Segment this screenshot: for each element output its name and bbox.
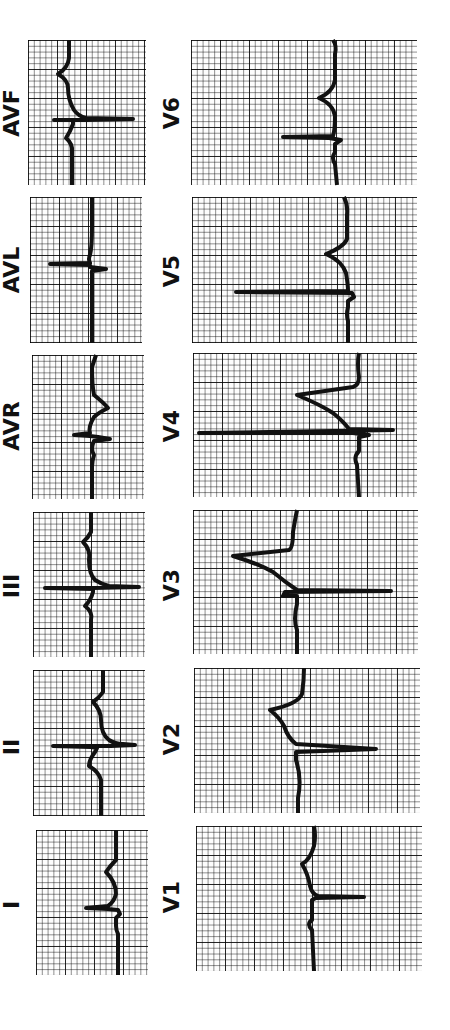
lead-label-v1: V1 [159, 867, 185, 927]
ecg-strip-v1 [196, 826, 422, 971]
ecg-trace-v3 [193, 510, 418, 654]
lead-label-avl: AVL [0, 240, 25, 300]
ecg-strip-v6 [191, 40, 417, 185]
ecg-trace-avl [30, 197, 142, 343]
ecg-trace-ii [33, 670, 145, 816]
ecg-trace-v1 [196, 826, 422, 971]
ecg-strip-v4 [193, 353, 417, 497]
ecg-strip-avf [28, 40, 146, 185]
ecg-trace-v5 [192, 197, 417, 343]
ecg-strip-ii [33, 670, 145, 816]
lead-label-i: I [0, 875, 25, 935]
lead-label-avr: AVR [0, 396, 25, 456]
lead-label-v6: V6 [159, 83, 185, 143]
lead-label-v2: V2 [159, 709, 185, 769]
lead-label-v5: V5 [159, 241, 185, 301]
ecg-trace-iii [33, 512, 145, 657]
ecg-trace-avf [28, 40, 146, 185]
lead-label-v3: V3 [159, 555, 185, 615]
ecg-trace-i [36, 830, 148, 975]
lead-label-ii: II [0, 717, 25, 777]
ecg-strip-iii [33, 512, 145, 657]
lead-label-avf: AVF [0, 83, 25, 143]
ecg-strip-v2 [194, 668, 420, 813]
lead-label-v4: V4 [159, 396, 185, 456]
ecg-trace-avr [32, 355, 144, 499]
ecg-trace-v4 [193, 353, 417, 497]
ecg-strip-avr [32, 355, 144, 499]
ecg-strip-i [36, 830, 148, 975]
ecg-strip-avl [30, 197, 142, 343]
ecg-strip-v3 [193, 510, 418, 654]
lead-label-iii: III [0, 556, 25, 616]
ecg-trace-v2 [194, 668, 420, 813]
ecg-trace-v6 [191, 40, 417, 185]
ecg-strip-v5 [192, 197, 417, 343]
